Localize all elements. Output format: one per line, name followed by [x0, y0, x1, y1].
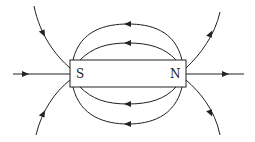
arrow-icon: [22, 71, 29, 77]
field-line-upper-left: [34, 6, 70, 68]
field-line-lower-left: [36, 80, 70, 135]
field-line-inner-top: [80, 43, 176, 60]
south-pole-label: S: [76, 67, 84, 81]
arrow-icon: [39, 30, 47, 39]
field-line-inner-bottom: [80, 87, 176, 104]
arrow-icon: [124, 40, 131, 46]
arrow-icon: [124, 101, 131, 107]
bar-magnet-field-diagram: S N: [0, 0, 255, 142]
arrow-icon: [222, 71, 229, 77]
bar-magnet: [70, 60, 186, 87]
arrow-icon: [124, 121, 131, 127]
arrow-icon: [124, 21, 131, 27]
field-line-upper-right: [186, 12, 220, 68]
north-pole-label: N: [170, 67, 181, 81]
field-line-lower-right: [186, 80, 220, 135]
